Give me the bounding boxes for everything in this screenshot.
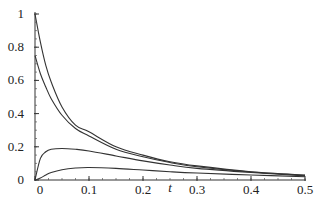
x-axis-ticks: 00.10.20.30.40.5 [35,176,313,197]
plot-area: 00.20.40.60.81 00.10.20.30.40.5 t [8,6,313,197]
x-tick-label: 0.1 [81,182,97,197]
y-tick-label: 0 [18,172,25,187]
y-axis-ticks: 00.20.40.60.81 [8,6,39,187]
curve-group [35,14,305,180]
y-tick-label: 0.6 [8,72,25,87]
x-tick-label: 0 [37,182,44,197]
x-tick-label: 0.2 [135,182,151,197]
curve-2-line [35,56,305,176]
x-tick-label: 0.5 [297,182,313,197]
y-tick-label: 0.4 [8,106,25,121]
y-tick-label: 0.8 [8,39,24,54]
x-axis-label: t [168,180,172,195]
y-tick-label: 0.2 [8,139,24,154]
line-chart: 00.20.40.60.81 00.10.20.30.40.5 t [0,0,319,205]
y-tick-label: 1 [18,6,25,21]
curve-1-line [35,14,305,175]
x-tick-label: 0.3 [189,182,205,197]
x-tick-label: 0.4 [243,182,260,197]
